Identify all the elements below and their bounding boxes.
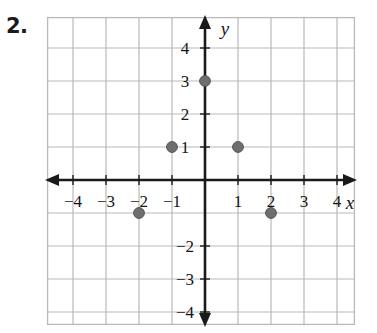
problem-number: 2. — [6, 14, 28, 38]
x-tick-label--1: −1 — [163, 193, 181, 210]
x-tick-label--4: −4 — [64, 193, 82, 210]
data-point — [200, 76, 211, 87]
y-tick-label--2: −2 — [176, 238, 194, 255]
y-tick-label-4: 4 — [181, 40, 190, 57]
x-axis-label: x — [346, 193, 354, 212]
x-tick-label-2: 2 — [267, 193, 276, 210]
y-tick-label--3: −3 — [176, 271, 194, 288]
worksheet-figure: 2. −4−3−2−112344321−2−3−4xy — [0, 0, 377, 333]
x-tick-label-1: 1 — [234, 193, 243, 210]
data-point — [167, 142, 178, 153]
y-axis-label: y — [221, 19, 229, 38]
data-points — [47, 17, 355, 325]
y-tick-label-3: 3 — [181, 73, 190, 90]
x-tick-label--2: −2 — [130, 193, 148, 210]
y-tick-label-1: 1 — [181, 139, 190, 156]
x-tick-label-3: 3 — [300, 193, 309, 210]
y-tick-label--4: −4 — [176, 304, 194, 321]
x-tick-label--3: −3 — [97, 193, 115, 210]
data-point — [233, 142, 244, 153]
x-tick-label-4: 4 — [333, 193, 342, 210]
y-tick-label-2: 2 — [181, 106, 190, 123]
coordinate-plane: −4−3−2−112344321−2−3−4xy — [47, 17, 355, 325]
